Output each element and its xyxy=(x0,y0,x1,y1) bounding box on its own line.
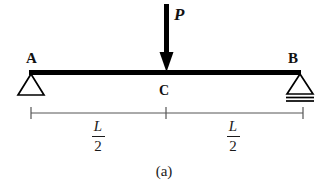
load-label-p: P xyxy=(174,6,184,23)
node-label-a: A xyxy=(26,51,37,66)
beam-member xyxy=(29,70,301,75)
figure-caption: (a) xyxy=(0,163,328,180)
node-label-b: B xyxy=(288,51,298,66)
beam-diagram-figure: P A B C L 2 L 2 xyxy=(0,0,328,195)
dimension-line xyxy=(25,104,309,126)
pin-support-a xyxy=(15,73,47,101)
dimension-right-span: L 2 xyxy=(218,119,248,155)
dimension-left-span: L 2 xyxy=(83,119,113,155)
dimension-right-numerator: L xyxy=(218,119,248,136)
node-label-c: C xyxy=(159,84,169,98)
dimension-left-denominator: 2 xyxy=(83,137,113,155)
dimension-left-numerator: L xyxy=(83,119,113,136)
roller-support-b xyxy=(284,73,316,107)
dimension-right-denominator: 2 xyxy=(218,137,248,155)
